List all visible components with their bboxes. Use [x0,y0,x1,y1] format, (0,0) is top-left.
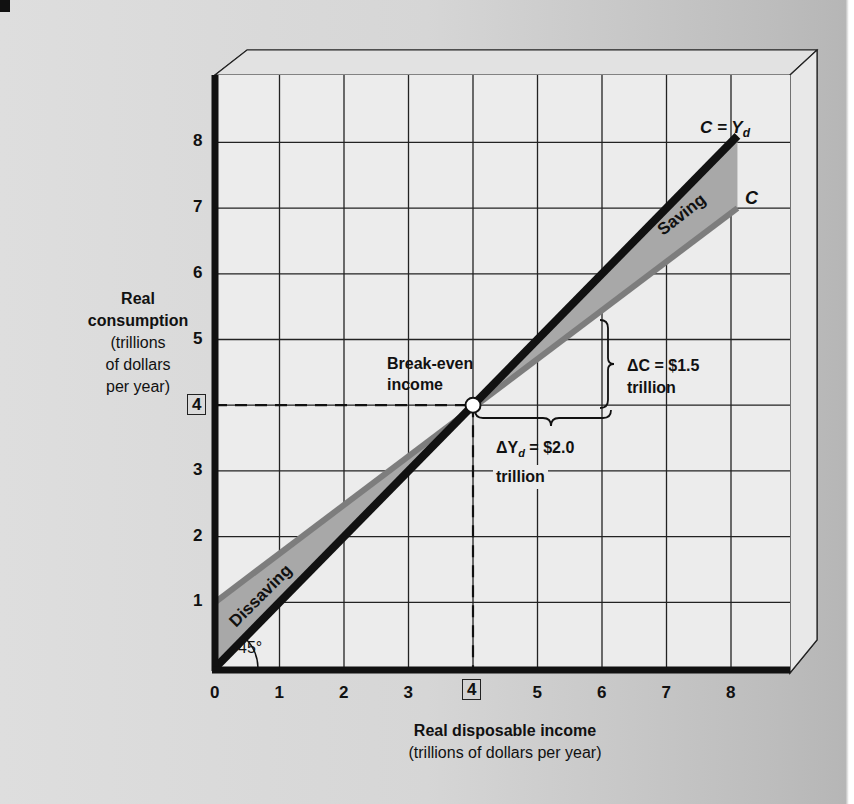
box-top-face [215,50,817,75]
y-tick-3: 3 [193,460,202,480]
x-tick-5: 5 [533,683,542,703]
y-axis-subtitle-line: per year) [78,376,198,398]
x-tick-0: 0 [210,683,219,703]
x-tick-2: 2 [339,683,348,703]
break-even-label: Break-even income [387,353,473,395]
series-label-45: C = Yd [700,118,750,140]
x-tick-1: 1 [275,683,284,703]
y-axis-subtitle-line: (trillions [78,332,198,354]
y-tick-4: 4 [187,394,206,415]
x-tick-3: 3 [404,683,413,703]
y-axis-title: Realconsumption (trillionsof dollarsper … [78,288,198,398]
box-right-face [790,50,817,673]
y-axis-subtitle-line: of dollars [78,354,198,376]
y-tick-8: 8 [193,131,202,151]
series-label-c: C [745,188,758,209]
y-tick-1: 1 [193,591,202,611]
delta-yd-label: ΔYd = $2.0 trillion [496,436,574,489]
y-tick-6: 6 [193,263,202,283]
x-tick-8: 8 [726,683,735,703]
angle-label: 45° [238,639,262,656]
delta-c-label: ΔC = $1.5 trillion [627,355,699,399]
x-axis-title: Real disposable income (trillions of dol… [360,720,650,764]
x-tick-4: 4 [462,679,481,700]
y-tick-2: 2 [193,526,202,546]
x-tick-6: 6 [597,683,606,703]
break-even-point [466,398,481,413]
x-tick-7: 7 [662,683,671,703]
y-tick-5: 5 [193,329,202,349]
y-tick-7: 7 [193,197,202,217]
